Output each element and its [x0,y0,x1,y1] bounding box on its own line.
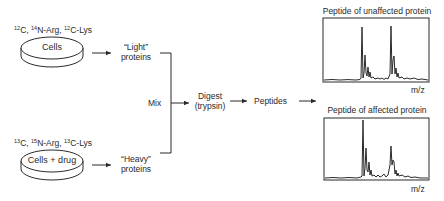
spectrum-affected [324,118,429,180]
dish-label-cells: Cells [21,42,83,52]
light-proteins-label: “Light” proteins [112,42,160,62]
isotope-label-light: 12C, 14N-Arg, 12C-Lys [14,25,92,35]
isotope-label-heavy: 13C, 15N-Arg, 13C-Lys [14,138,92,148]
spectrum-xlabel-unaffected: m/z [411,85,425,95]
mix-label: Mix [148,98,161,108]
heavy-proteins-label: “Heavy” proteins [112,154,160,174]
spectrum-unaffected [323,18,429,82]
spectrum-title-affected: Peptide of affected protein [318,105,436,115]
peptides-label: Peptides [254,96,287,106]
mix-bracket [160,53,171,153]
spectrum-xlabel-affected: m/z [411,184,425,194]
digest-label: Digest (trypsin) [190,91,230,111]
dish-label-cells-drug: Cells + drug [21,155,83,165]
spectrum-title-unaffected: Peptide of unaffected protein [318,6,436,16]
